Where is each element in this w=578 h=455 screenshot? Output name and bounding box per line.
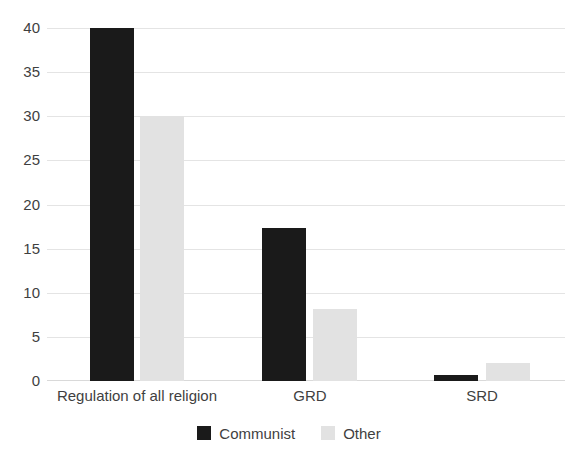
bar-other-regulation-of-all-religion	[140, 116, 184, 381]
legend-label-communist: Communist	[219, 426, 295, 441]
bar-communist-srd	[434, 375, 478, 381]
legend-entry-other: Other	[321, 426, 381, 441]
x-tick-label-grd: GRD	[210, 386, 410, 406]
y-tick-label: 15	[6, 241, 40, 256]
x-axis: Regulation of all religion GRD SRD	[47, 386, 565, 410]
x-tick-label-srd: SRD	[382, 386, 578, 406]
legend-swatch-icon-other	[321, 426, 335, 440]
legend-label-other: Other	[343, 426, 381, 441]
bar-chart: 40 35 30 25 20 15 10 5 0 Regulation of a…	[0, 0, 578, 455]
y-tick-label: 40	[6, 20, 40, 35]
y-tick-label: 5	[6, 329, 40, 344]
legend-entry-communist: Communist	[197, 426, 295, 441]
y-tick-label: 0	[6, 373, 40, 388]
y-tick-label: 30	[6, 108, 40, 123]
plot-area	[47, 28, 565, 381]
bar-other-grd	[313, 309, 357, 381]
y-tick-label: 20	[6, 197, 40, 212]
bar-other-srd	[486, 363, 530, 381]
bar-communist-regulation-of-all-religion	[90, 28, 134, 381]
chart-legend: Communist Other	[0, 421, 578, 445]
bar-communist-grd	[262, 228, 306, 381]
y-tick-label: 25	[6, 152, 40, 167]
y-tick-label: 10	[6, 285, 40, 300]
y-axis: 40 35 30 25 20 15 10 5 0	[0, 28, 40, 381]
y-tick-label: 35	[6, 64, 40, 79]
legend-swatch-icon-communist	[197, 426, 211, 440]
x-tick-label-regulation-of-all-religion: Regulation of all religion	[37, 386, 237, 406]
